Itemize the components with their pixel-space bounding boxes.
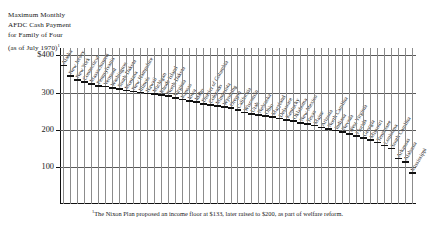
bar-stem [384, 48, 385, 204]
bar-value-cap [74, 79, 81, 81]
bar-stem [182, 48, 183, 204]
bar-stem [377, 48, 378, 204]
bar-value-cap [207, 104, 214, 106]
bar-column [228, 48, 235, 204]
bar-value-cap [304, 123, 311, 125]
bar-stem [140, 48, 141, 204]
bar-stem [126, 48, 127, 204]
bar-column [360, 48, 367, 204]
bar-column [395, 48, 402, 204]
bar-column [304, 48, 311, 204]
footnote: 1The Nixon Plan proposed an income floor… [92, 208, 343, 218]
bar-value-cap [109, 87, 116, 89]
bar-stem [196, 48, 197, 204]
bar-column [74, 48, 81, 204]
bar-stem [370, 48, 371, 204]
bar-column [179, 48, 186, 204]
bar-stem [272, 48, 273, 204]
bar-column [409, 48, 416, 204]
bar-value-cap [221, 106, 228, 108]
bar-value-cap [123, 90, 130, 92]
bar-stem [391, 48, 392, 204]
bar-column [290, 48, 297, 204]
bar-column [109, 48, 116, 204]
bar-value-cap [339, 131, 346, 133]
bar-column [165, 48, 172, 204]
plot-area: $400300200100 [60, 48, 416, 204]
bar-column [283, 48, 290, 204]
bar-column [388, 48, 395, 204]
bar-value-cap [172, 97, 179, 99]
bar-value-cap [262, 115, 269, 117]
bar-stem [265, 48, 266, 204]
bar-value-cap [332, 130, 339, 132]
bar-stem [112, 48, 113, 204]
bar-column [235, 48, 242, 204]
y-axis-tick-label: 200 [41, 126, 54, 134]
bar-value-cap [290, 120, 297, 122]
bar-column [200, 48, 207, 204]
bar-value-cap [311, 125, 318, 127]
bar-value-cap [346, 133, 353, 135]
bar-value-cap [151, 93, 158, 95]
bar-stem [224, 48, 225, 204]
bar-column [255, 48, 262, 204]
bar-column [207, 48, 214, 204]
bar-stem [161, 48, 162, 204]
bar-value-cap [200, 103, 207, 105]
bar-column [81, 48, 88, 204]
y-axis-tick-label: 100 [41, 163, 54, 171]
bar-column [60, 48, 67, 204]
bar-stem [147, 48, 148, 204]
bar-column [123, 48, 130, 204]
bar-stem [168, 48, 169, 204]
bar-stem [210, 48, 211, 204]
bar-stem [244, 48, 245, 204]
bar-value-cap [269, 116, 276, 118]
bar-value-cap [186, 100, 193, 102]
bar-stem [342, 48, 343, 204]
bar-value-cap [381, 145, 388, 147]
bar-value-cap [137, 92, 144, 94]
bar-column [339, 48, 346, 204]
bar-column [95, 48, 102, 204]
bar-column [346, 48, 353, 204]
bar-stem [286, 48, 287, 204]
bar-value-cap [353, 135, 360, 137]
bar-stem [328, 48, 329, 204]
bar-stem [258, 48, 259, 204]
bar-value-cap [60, 65, 67, 67]
bar-value-cap [255, 114, 262, 116]
bars-container [60, 48, 416, 204]
bar-column [248, 48, 255, 204]
bar-column [158, 48, 165, 204]
bar-value-cap [395, 158, 402, 160]
bar-column [381, 48, 388, 204]
bar-column [353, 48, 360, 204]
bar-stem [356, 48, 357, 204]
bar-stem [63, 48, 64, 204]
bar-column [311, 48, 318, 204]
bar-column [269, 48, 276, 204]
bar-stem [335, 48, 336, 204]
bar-stem [300, 48, 301, 204]
bar-value-cap [318, 127, 325, 129]
bar-stem [231, 48, 232, 204]
bar-column [325, 48, 332, 204]
bar-stem [119, 48, 120, 204]
bar-column [88, 48, 95, 204]
bar-column [318, 48, 325, 204]
bar-stem [398, 48, 399, 204]
bar-stem [279, 48, 280, 204]
bar-column [186, 48, 193, 204]
bar-value-cap [388, 148, 395, 150]
bar-stem [307, 48, 308, 204]
bar-value-cap [67, 75, 74, 77]
bar-value-cap [402, 161, 409, 163]
bar-value-cap [95, 85, 102, 87]
bar-stem [189, 48, 190, 204]
bar-column [151, 48, 158, 204]
bar-stem [293, 48, 294, 204]
bar-value-cap [165, 95, 172, 97]
